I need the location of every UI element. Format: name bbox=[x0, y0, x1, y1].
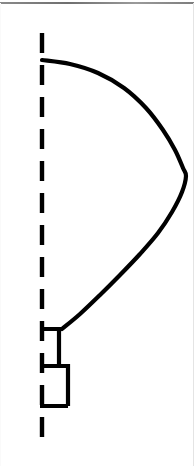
lobe-outline-path bbox=[42, 60, 186, 329]
figure-canvas bbox=[0, 0, 194, 466]
lobe-outline-group bbox=[42, 60, 186, 329]
line-drawing bbox=[0, 0, 194, 466]
